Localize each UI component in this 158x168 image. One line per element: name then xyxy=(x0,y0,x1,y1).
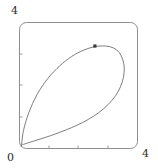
origin-label: 0 xyxy=(7,152,14,163)
y-axis-max-label: 4 xyxy=(11,5,18,16)
plot-canvas xyxy=(0,0,158,168)
plot-figure: 4 0 4 xyxy=(0,0,158,168)
loop-apex-marker xyxy=(93,44,96,47)
x-axis-max-label: 4 xyxy=(142,148,149,159)
plot-frame xyxy=(20,23,138,149)
